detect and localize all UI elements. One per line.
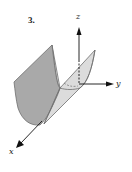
- parabolic-cylinder-figure: 3. z y x: [0, 0, 132, 172]
- figure-number: 3.: [28, 16, 35, 25]
- z-axis-label: z: [76, 13, 80, 21]
- surface-plot: [0, 0, 132, 172]
- y-axis-label: y: [116, 80, 121, 88]
- x-axis-label: x: [9, 148, 14, 156]
- z-axis-arrowhead: [77, 27, 82, 35]
- y-axis-arrowhead: [106, 82, 114, 87]
